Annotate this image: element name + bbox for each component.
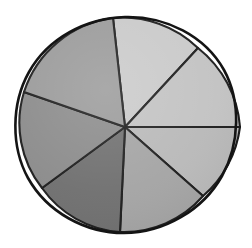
pie-chart-figure bbox=[0, 0, 252, 248]
paper-texture-overlay bbox=[0, 0, 252, 248]
pie-chart-svg bbox=[0, 0, 252, 248]
